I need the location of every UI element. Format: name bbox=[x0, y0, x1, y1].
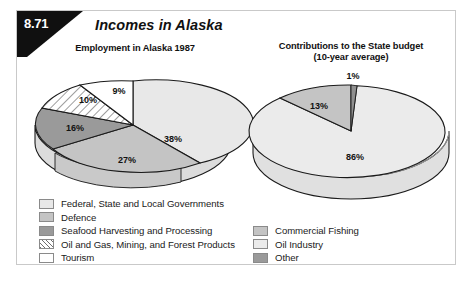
pie-chart-employment-svg: 38% 27% 16% 10% 9% bbox=[31, 59, 235, 189]
chart-title-employment: Employment in Alaska 1987 bbox=[37, 43, 233, 54]
pie-chart-state-budget-svg: 86% 13% 1% bbox=[249, 63, 453, 199]
legend-state-budget: Commercial Fishing Oil Industry Other bbox=[253, 224, 359, 265]
legend-swatch-other bbox=[253, 253, 268, 263]
chart-title-state-budget-line2: (10-year average) bbox=[251, 52, 451, 63]
pie-value-38: 38% bbox=[164, 134, 182, 144]
legend-label-defence: Defence bbox=[61, 212, 96, 223]
legend-swatch-commercial-fishing bbox=[253, 226, 268, 236]
legend-employment: Federal, State and Local Governments Def… bbox=[39, 197, 235, 265]
panel-employment: Employment in Alaska 1987 bbox=[17, 11, 245, 264]
pie-value-13: 13% bbox=[310, 101, 328, 111]
legend-label-other: Other bbox=[275, 252, 299, 263]
pie-value-1: 1% bbox=[346, 71, 359, 81]
legend-swatch-tourism bbox=[39, 253, 54, 263]
legend-swatch-defence bbox=[39, 212, 54, 222]
chart-title-state-budget-line1: Contributions to the State budget bbox=[251, 41, 451, 52]
pie-value-16: 16% bbox=[66, 123, 84, 133]
legend-item-oil-gas-mining-forest: Oil and Gas, Mining, and Forest Products bbox=[39, 238, 235, 252]
chart-title-state-budget: Contributions to the State budget (10-ye… bbox=[251, 41, 451, 62]
pie-chart-employment: 38% 27% 16% 10% 9% bbox=[31, 59, 235, 189]
legend-swatch-oil-industry bbox=[253, 239, 268, 249]
pie-value-27: 27% bbox=[118, 155, 136, 165]
legend-item-commercial-fishing: Commercial Fishing bbox=[253, 224, 359, 238]
pie-value-86: 86% bbox=[346, 152, 364, 162]
legend-item-tourism: Tourism bbox=[39, 251, 235, 265]
legend-label-federal-state-local: Federal, State and Local Governments bbox=[61, 198, 224, 209]
legend-item-other: Other bbox=[253, 251, 359, 265]
legend-swatch-federal-state-local bbox=[39, 199, 54, 209]
legend-swatch-seafood bbox=[39, 226, 54, 236]
legend-label-oil-industry: Oil Industry bbox=[275, 239, 323, 250]
legend-item-oil-industry: Oil Industry bbox=[253, 238, 359, 252]
legend-label-oil-gas-mining-forest: Oil and Gas, Mining, and Forest Products bbox=[61, 239, 235, 250]
legend-label-seafood: Seafood Harvesting and Processing bbox=[61, 225, 212, 236]
pie-value-10: 10% bbox=[79, 95, 97, 105]
legend-label-commercial-fishing: Commercial Fishing bbox=[275, 225, 359, 236]
legend-item-federal-state-local: Federal, State and Local Governments bbox=[39, 197, 235, 211]
pie-chart-state-budget: 86% 13% 1% bbox=[249, 63, 453, 199]
pie-value-9: 9% bbox=[112, 86, 125, 96]
legend-item-seafood: Seafood Harvesting and Processing bbox=[39, 224, 235, 238]
legend-swatch-oil-gas-mining-forest bbox=[39, 239, 54, 249]
panel-state-budget: Contributions to the State budget (10-ye… bbox=[245, 11, 457, 264]
legend-label-tourism: Tourism bbox=[61, 252, 94, 263]
figure-frame: 8.71 Incomes in Alaska Employment in Ala… bbox=[16, 10, 456, 265]
legend-item-defence: Defence bbox=[39, 211, 235, 225]
